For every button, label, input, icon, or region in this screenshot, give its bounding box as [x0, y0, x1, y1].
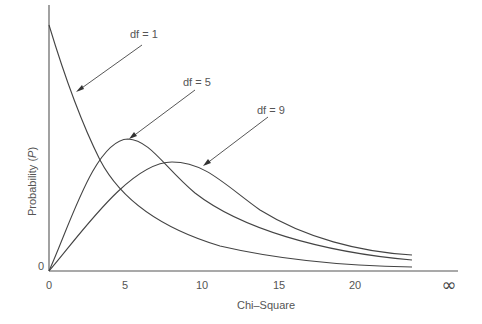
curve-df-5: [49, 139, 412, 271]
x-tick-5: 5: [122, 279, 128, 291]
x-infinity-label: ∞: [442, 274, 457, 295]
x-tick-15: 15: [273, 279, 285, 291]
arrow-df-9: [206, 117, 268, 164]
arrowhead-df-9: [203, 159, 211, 166]
label-df-5: df = 5: [183, 76, 211, 88]
curve-df-1: [49, 25, 412, 267]
y-tick-0: 0: [38, 260, 44, 272]
chi-square-chart: Probability (P) 0 0 5 10 15 20 ∞ Chi–Squ…: [0, 0, 482, 324]
label-df-1: df = 1: [130, 28, 158, 40]
x-tick-0: 0: [46, 279, 52, 291]
arrow-df-5: [132, 90, 195, 137]
y-axis-label: Probability (P): [26, 147, 38, 216]
arrowhead-df-5: [129, 132, 137, 139]
arrow-df-1: [79, 45, 142, 90]
label-df-9: df = 9: [257, 104, 285, 116]
curve-df-9: [49, 162, 412, 271]
x-tick-10: 10: [196, 279, 208, 291]
x-axis-label: Chi–Square: [237, 299, 295, 311]
x-tick-20: 20: [349, 279, 361, 291]
arrowhead-df-1: [76, 85, 84, 92]
